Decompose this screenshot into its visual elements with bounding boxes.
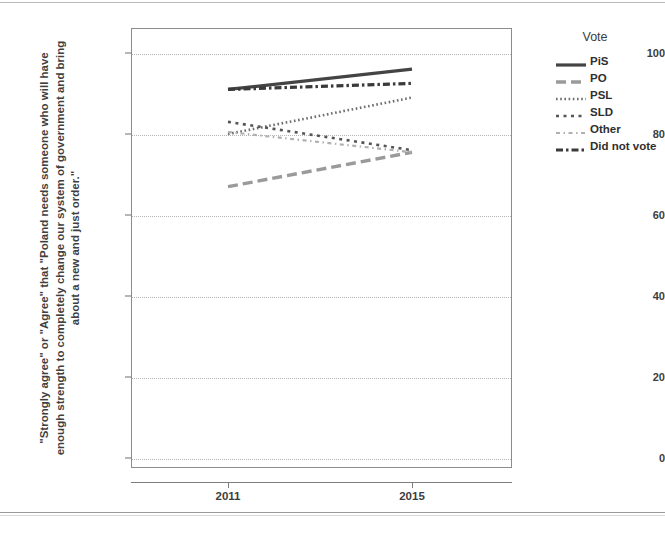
y-tick-label-40: 40 <box>631 290 665 302</box>
x-axis-line <box>131 482 512 483</box>
legend-items: PiSPOPSLSLDOtherDid not vote <box>556 53 660 153</box>
page-top-rule <box>0 2 665 3</box>
page-bottom-rule-secondary <box>0 515 665 516</box>
legend: Vote PiSPOPSLSLDOtherDid not vote <box>556 30 660 155</box>
gridline-60 <box>132 216 511 217</box>
y-axis-title: "Strongly agree" or "Agree" that "Poland… <box>37 38 84 458</box>
y-tick-label-60: 60 <box>631 209 665 221</box>
page-bottom-rule <box>0 512 665 513</box>
y-axis-title-container: "Strongly agree" or "Agree" that "Poland… <box>14 28 106 468</box>
x-tick-mark-2011 <box>228 482 229 488</box>
legend-item-label: PSL <box>590 89 612 101</box>
x-tick-mark-2015 <box>412 482 413 488</box>
legend-item-sld[interactable]: SLD <box>556 104 660 119</box>
legend-item-label: SLD <box>590 106 613 118</box>
legend-item-po[interactable]: PO <box>556 70 660 85</box>
legend-title: Vote <box>558 30 632 44</box>
gridline-80 <box>132 135 511 136</box>
legend-item-did-not-vote[interactable]: Did not vote <box>556 138 660 153</box>
legend-swatch-icon <box>556 124 586 134</box>
x-tick-label-2015: 2015 <box>399 490 425 502</box>
gridline-20 <box>132 378 511 379</box>
chart-screenshot: "Strongly agree" or "Agree" that "Poland… <box>0 0 665 539</box>
legend-swatch-icon <box>556 107 586 117</box>
legend-item-label: Other <box>590 123 621 135</box>
gridline-100 <box>132 54 511 55</box>
legend-item-other[interactable]: Other <box>556 121 660 136</box>
legend-item-label: PiS <box>590 55 609 67</box>
plot-area <box>131 28 512 468</box>
gridline-0 <box>132 459 511 460</box>
legend-item-pis[interactable]: PiS <box>556 53 660 68</box>
legend-swatch-icon <box>556 56 586 66</box>
y-tick-label-20: 20 <box>631 371 665 383</box>
legend-swatch-icon <box>556 141 586 151</box>
legend-item-label: Did not vote <box>590 140 656 152</box>
y-tick-label-0: 0 <box>631 452 665 464</box>
legend-swatch-icon <box>556 73 586 83</box>
gridline-40 <box>132 297 511 298</box>
legend-item-label: PO <box>590 72 607 84</box>
x-tick-label-2011: 2011 <box>216 490 241 502</box>
legend-swatch-icon <box>556 90 586 100</box>
legend-item-psl[interactable]: PSL <box>556 87 660 102</box>
